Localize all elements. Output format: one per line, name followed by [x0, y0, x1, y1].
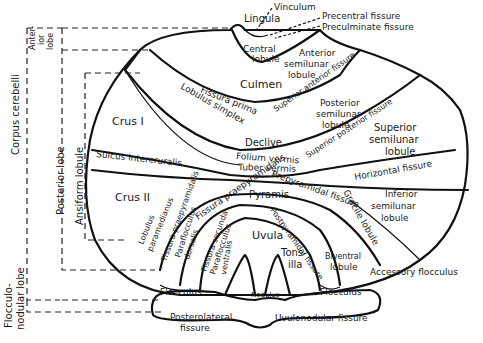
- label-corpus-cerebelli: Corpus cerebelli: [10, 74, 21, 155]
- label-anterior-semilunar-1: Anterior: [299, 48, 336, 58]
- label-posterolateral-fissure-1: Posterolateral: [170, 312, 232, 322]
- label-anterior-lobe-1: Anter-: [28, 26, 37, 50]
- label-biventral-lobule-1: Biventral: [325, 252, 361, 261]
- label-tonsilla-2: illa: [288, 259, 302, 270]
- label-crus-2: Crus II: [115, 191, 150, 204]
- label-precentral-fissure: Precentral fissure: [322, 11, 401, 21]
- label-inferior-semilunar-1: Inferior: [385, 189, 418, 199]
- side-labels: Corpus cerebelli Anter- ior lobe Posteri…: [3, 26, 85, 330]
- label-uvulonodular-fissure: Uvulonodular fissure: [275, 313, 368, 323]
- label-pyramis: Pyramis: [249, 189, 289, 200]
- label-biventral-lobule-2: lobule: [330, 262, 358, 272]
- region-labels: Central lobule Anterior semilunar lobule…: [96, 44, 433, 299]
- label-uvula: Uvula: [252, 229, 283, 242]
- bottom-labels: Accessory flocculus Posterolateral fissu…: [170, 267, 458, 333]
- top-labels: Vinculum Lingula Precentral fissure Prec…: [244, 2, 414, 32]
- label-vinculum: Vinculum: [274, 2, 316, 12]
- label-preculminate-fissure: Preculminate fissure: [322, 22, 414, 32]
- label-flocculus-left: Flocculus: [160, 287, 202, 297]
- label-posterior-semilunar-1: Posterior: [320, 98, 360, 108]
- cerebellum-diagram: Corpus cerebelli Anter- ior lobe Posteri…: [0, 0, 483, 343]
- label-superior-semilunar-3: lobule: [385, 146, 416, 157]
- label-superior-semilunar-2: semilunar: [369, 134, 419, 145]
- label-nodulus: Nodulus: [251, 291, 280, 299]
- label-flocculonodular-2: nodular lobe: [15, 267, 26, 330]
- label-central-lobule-1: Central: [243, 44, 276, 54]
- label-anterior-lobe-3: lobe: [46, 33, 55, 50]
- label-accessory-flocculus: Accessory flocculus: [370, 267, 458, 277]
- label-posterior-lobe: Posterior lobe: [55, 146, 66, 215]
- label-anterior-lobe-2: ior: [37, 34, 46, 45]
- label-culmen: Culmen: [240, 78, 282, 91]
- label-lingula: Lingula: [244, 13, 280, 24]
- label-ansiform-lobule: Ansiform lobule: [74, 147, 85, 225]
- label-superior-semilunar-1: Superior: [374, 122, 417, 133]
- label-flocculonodular-1: Flocculo-: [3, 283, 14, 328]
- label-tonsilla-1: Tons-: [280, 247, 307, 258]
- label-postpyramidal-fissure: Postpyramidal fissure: [268, 206, 325, 282]
- label-sulcus-intercruralis: Sulcus intercruralis: [96, 149, 183, 168]
- label-inferior-semilunar-3: lobule: [381, 213, 409, 223]
- label-inferior-semilunar-2: semilunar: [371, 201, 416, 211]
- label-posterior-semilunar-2: semilunar: [316, 109, 361, 119]
- label-crus-1: Crus I: [112, 115, 144, 128]
- label-flocculus-right: Flocculus: [320, 287, 362, 297]
- label-posterolateral-fissure-2: fissure: [180, 323, 210, 333]
- label-central-lobule-2: lobule: [252, 54, 280, 64]
- label-anterior-semilunar-2: semilunar: [284, 59, 329, 69]
- label-declive: Declive: [245, 137, 282, 148]
